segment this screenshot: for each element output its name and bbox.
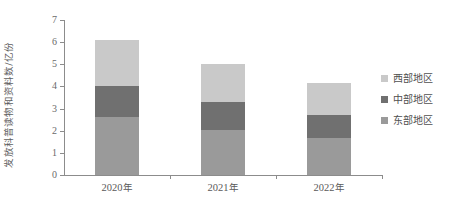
plot-area: 01234567 2020年2021年2022年: [64, 20, 382, 175]
y-tick-label: 3: [52, 104, 57, 114]
legend-item[interactable]: 东部地区: [381, 110, 453, 131]
y-tick-mark: [60, 131, 64, 132]
legend-label: 中部地区: [393, 95, 433, 105]
y-tick-label: 5: [52, 59, 57, 69]
stacked-bar-chart: 发放科普读物和资料数/亿份 01234567 2020年2021年2022年 西…: [0, 0, 455, 209]
x-tick-mark: [170, 175, 171, 179]
legend-swatch-icon: [381, 96, 388, 103]
y-tick-mark: [60, 86, 64, 87]
bar-segment-west: [201, 64, 245, 102]
y-tick-label: 0: [52, 170, 57, 180]
x-axis-label: 2022年: [314, 183, 345, 194]
y-tick-mark: [60, 175, 64, 176]
y-tick-label: 4: [52, 81, 57, 91]
y-tick-label: 6: [52, 37, 57, 47]
x-tick-mark: [276, 175, 277, 179]
bar-segment-west: [95, 40, 139, 87]
y-tick-mark: [60, 20, 64, 21]
bar-group: [307, 20, 351, 175]
y-tick-mark: [60, 109, 64, 110]
y-tick-mark: [60, 42, 64, 43]
x-axis-label: 2020年: [102, 183, 133, 194]
y-axis-title-text: 发放科普读物和资料数/亿份: [4, 42, 14, 168]
y-tick-label: 7: [52, 15, 57, 25]
legend-swatch-icon: [381, 75, 388, 82]
bar-group: [201, 20, 245, 175]
y-axis-title: 发放科普读物和资料数/亿份: [0, 0, 18, 209]
x-axis-label: 2021年: [208, 183, 239, 194]
x-axis-line: [64, 175, 382, 176]
y-tick-mark: [60, 153, 64, 154]
bar-segment-east: [95, 117, 139, 175]
legend-label: 西部地区: [393, 74, 433, 84]
y-tick-label: 2: [52, 126, 57, 136]
x-tick-mark: [382, 175, 383, 179]
bar-segment-central: [95, 86, 139, 117]
chart-legend: 西部地区中部地区东部地区: [381, 68, 453, 131]
legend-item[interactable]: 西部地区: [381, 68, 453, 89]
y-tick-mark: [60, 64, 64, 65]
y-tick-label: 1: [52, 148, 57, 158]
legend-item[interactable]: 中部地区: [381, 89, 453, 110]
y-axis-line: [64, 20, 65, 175]
legend-swatch-icon: [381, 117, 388, 124]
bar-segment-east: [307, 138, 351, 175]
bar-segment-central: [201, 102, 245, 130]
legend-label: 东部地区: [393, 116, 433, 126]
bar-segment-west: [307, 83, 351, 115]
bar-segment-central: [307, 115, 351, 138]
bar-segment-east: [201, 130, 245, 175]
bar-group: [95, 20, 139, 175]
